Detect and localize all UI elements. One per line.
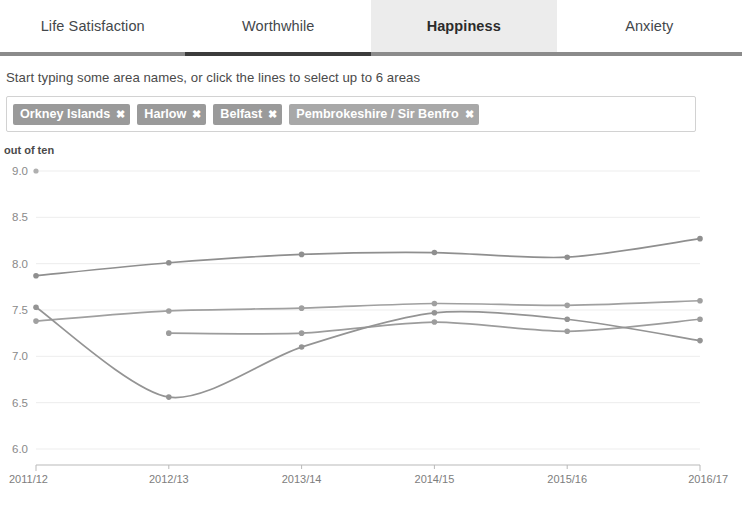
series-line[interactable] [36, 301, 700, 321]
tab-happiness[interactable]: Happiness [371, 0, 557, 52]
series-data-point[interactable] [697, 338, 703, 344]
tab-worthwhile[interactable]: Worthwhile [186, 0, 372, 52]
chip-label: Pembrokeshire / Sir Benfro [296, 107, 458, 121]
chip-orkney-islands[interactable]: Orkney Islands ✖ [13, 104, 130, 125]
tab-label: Life Satisfaction [41, 18, 145, 34]
chip-pembrokeshire-sir-benfro[interactable]: Pembrokeshire / Sir Benfro ✖ [289, 104, 478, 125]
series-data-point[interactable] [299, 305, 305, 311]
tab-label: Worthwhile [242, 18, 314, 34]
series-data-point[interactable] [564, 254, 570, 260]
series-data-point[interactable] [564, 329, 570, 335]
chip-belfast[interactable]: Belfast ✖ [213, 104, 282, 125]
y-axis-tick-label: 7.5 [12, 304, 28, 316]
series-data-point[interactable] [697, 236, 703, 242]
area-search-input[interactable]: Orkney Islands ✖ Harlow ✖ Belfast ✖ Pemb… [6, 96, 696, 132]
chip-label: Orkney Islands [20, 107, 110, 121]
chip-label: Harlow [144, 107, 186, 121]
x-axis-tick-label: 2012/13 [149, 473, 189, 485]
series-data-point[interactable] [33, 304, 39, 310]
series-data-point[interactable] [166, 260, 172, 266]
series-data-point[interactable] [432, 319, 438, 325]
y-axis-tick-label: 8.5 [12, 211, 28, 223]
tab-life-satisfaction[interactable]: Life Satisfaction [0, 0, 186, 52]
series-data-point[interactable] [299, 330, 305, 336]
series-data-point[interactable] [564, 316, 570, 322]
chip-label: Belfast [220, 107, 262, 121]
tabs-row: Life Satisfaction Worthwhile Happiness A… [0, 0, 742, 52]
series-data-point[interactable] [432, 250, 438, 256]
x-axis-tick-label: 2013/14 [282, 473, 322, 485]
series-data-point[interactable] [299, 252, 305, 258]
chip-remove-icon[interactable]: ✖ [192, 109, 201, 120]
x-axis-line [36, 465, 700, 471]
chip-harlow[interactable]: Harlow ✖ [137, 104, 206, 125]
chip-remove-icon[interactable]: ✖ [116, 109, 125, 120]
series-line[interactable] [36, 239, 700, 276]
x-axis-tick-label: 2014/15 [415, 473, 455, 485]
tab-label: Anxiety [625, 18, 673, 34]
series-data-point[interactable] [166, 330, 172, 336]
series-data-point[interactable] [166, 308, 172, 314]
chip-remove-icon[interactable]: ✖ [268, 109, 277, 120]
series-data-point[interactable] [564, 303, 570, 309]
y-axis-tick-label: 7.0 [12, 350, 28, 362]
axis-marker-dot [33, 168, 38, 173]
x-axis-tick-label: 2011/12 [9, 473, 48, 485]
series-data-point[interactable] [432, 310, 438, 316]
series-data-point[interactable] [33, 273, 39, 279]
instruction-text: Start typing some area names, or click t… [6, 70, 742, 85]
happiness-line-chart: out of ten 9.08.58.07.57.06.56.02011/122… [0, 144, 742, 524]
tab-label: Happiness [427, 18, 501, 34]
x-axis-tick-label: 2015/16 [547, 473, 587, 485]
y-axis-tick-label: 6.0 [12, 443, 28, 455]
tab-anxiety[interactable]: Anxiety [557, 0, 742, 52]
y-axis-tick-label: 9.0 [12, 165, 28, 177]
series-data-point[interactable] [697, 298, 703, 304]
tab-underline-active-segment [185, 52, 371, 56]
chart-plot-area[interactable]: 9.08.58.07.57.06.56.02011/122012/132013/… [0, 144, 742, 524]
chip-remove-icon[interactable]: ✖ [465, 109, 474, 120]
x-axis-tick-label: 2016/17 [688, 473, 728, 485]
y-axis-tick-label: 8.0 [12, 258, 28, 270]
series-data-point[interactable] [697, 316, 703, 322]
tab-underline [0, 52, 742, 56]
series-data-point[interactable] [299, 344, 305, 350]
series-line[interactable] [36, 307, 700, 397]
y-axis-tick-label: 6.5 [12, 397, 28, 409]
series-data-point[interactable] [166, 394, 172, 400]
series-data-point[interactable] [33, 318, 39, 324]
series-data-point[interactable] [432, 301, 438, 307]
tab-bar: Life Satisfaction Worthwhile Happiness A… [0, 0, 742, 56]
